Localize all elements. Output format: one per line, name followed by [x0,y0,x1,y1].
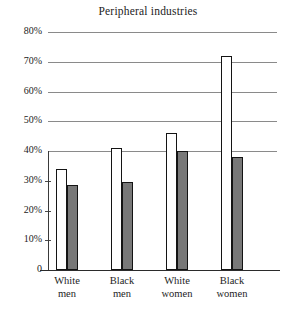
bar-group [221,32,243,270]
category-label-line: women [147,287,207,300]
bar-group [166,32,188,270]
x-axis-category-label: Whitemen [37,274,97,300]
bar [56,169,67,270]
category-label-line: Black [92,274,152,287]
category-label-line: men [37,287,97,300]
y-axis-tick-label: 40% [0,144,42,155]
y-axis-tick-label: 20% [0,204,42,215]
bar-group [111,32,133,270]
category-label-line: White [37,274,97,287]
bar [67,185,78,270]
plot-area [48,32,277,270]
chart-title: Peripheral industries [0,5,296,17]
bar [232,157,243,270]
bar [122,182,133,270]
x-axis-category-label: Blackwomen [202,274,262,300]
x-axis-category-label: Whitewomen [147,274,207,300]
y-axis-tick-label: 10% [0,233,42,244]
y-axis-tick-label: 50% [0,114,42,125]
y-axis-tick-label: 0 [0,263,42,274]
bar [166,133,177,270]
category-label-line: women [202,287,262,300]
y-axis-tick-label: 70% [0,55,42,66]
bar [221,56,232,270]
y-axis-tick-label: 30% [0,174,42,185]
bar [177,151,188,270]
y-axis-line [48,151,49,271]
category-label-line: Black [202,274,262,287]
category-label-line: White [147,274,207,287]
bar-chart: Peripheral industries 80%70%60%50%40%30%… [0,0,296,312]
x-axis-category-label: Blackmen [92,274,152,300]
x-axis-line [40,270,280,271]
bar-group [56,32,78,270]
category-label-line: men [92,287,152,300]
bar [111,148,122,270]
y-axis-tick-label: 60% [0,85,42,96]
y-axis-tick-label: 80% [0,25,42,36]
